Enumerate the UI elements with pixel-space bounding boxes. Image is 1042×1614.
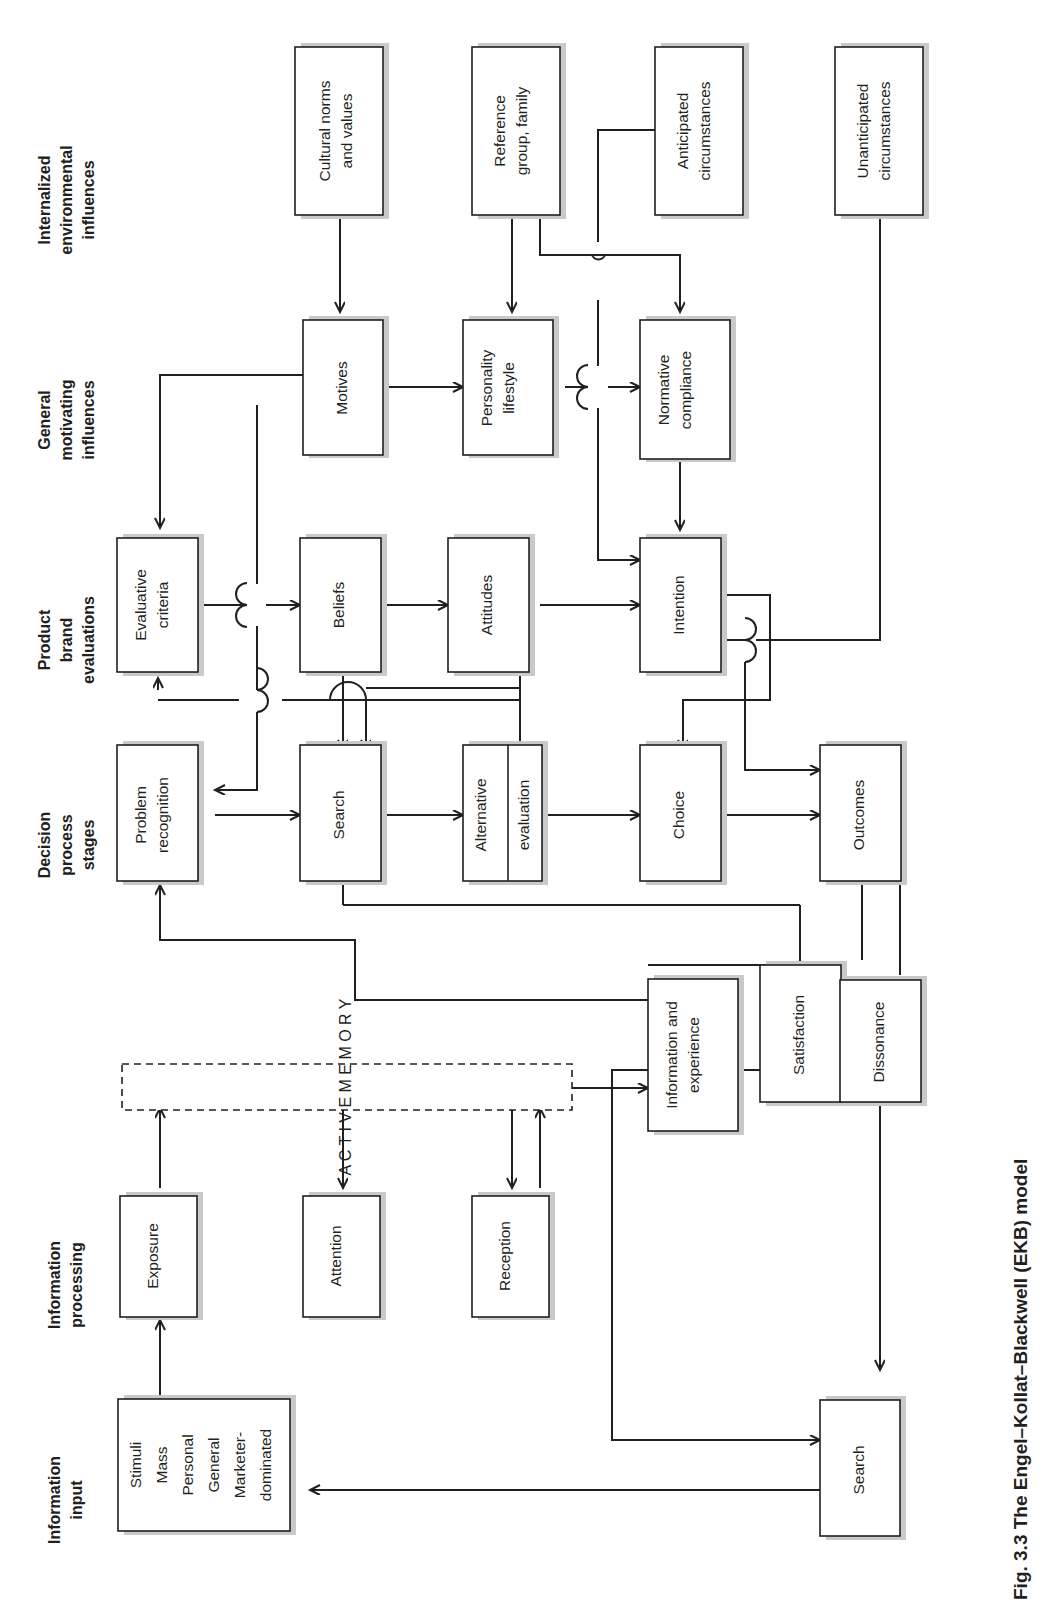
col-product-l2: brand: [58, 618, 75, 662]
diagram-canvas: Internalized environmental influences Ge…: [0, 0, 1042, 1614]
box-evaluative-criteria[interactable]: Evaluative criteria: [117, 534, 204, 676]
box-stimuli-l4: General: [205, 1437, 222, 1492]
box-reference-group-l1: Reference: [491, 95, 508, 167]
box-intention-label: Intention: [670, 575, 687, 634]
box-attention-label: Attention: [327, 1225, 344, 1286]
box-anticipated-l2: circumstances: [696, 81, 713, 180]
box-cultural-norms[interactable]: Cultural norms and values: [295, 43, 389, 219]
box-anticipated-l1: Anticipated: [674, 93, 691, 170]
col-general-l3: influences: [80, 380, 97, 459]
box-outcomes[interactable]: Outcomes: [820, 741, 907, 885]
box-intention[interactable]: Intention: [640, 534, 727, 676]
box-attention[interactable]: Attention: [303, 1192, 386, 1320]
box-search-input[interactable]: Search: [820, 1396, 906, 1540]
ekb-diagram: Internalized environmental influences Ge…: [0, 0, 1042, 1614]
box-normative-l2: compliance: [677, 351, 694, 429]
box-stimuli-l1: Stimuli: [127, 1442, 144, 1489]
box-info-l1: Information and: [663, 1001, 680, 1109]
box-dissonance-label: Dissonance: [870, 1002, 887, 1083]
box-evalcrit-l1: Evaluative: [132, 569, 149, 641]
box-reception-label: Reception: [496, 1221, 513, 1291]
box-exposure[interactable]: Exposure: [120, 1192, 203, 1320]
box-normative-l1: Normative: [655, 355, 672, 426]
active-memory-label: A C T I V E M E M O R Y: [337, 998, 354, 1175]
col-input-l2: input: [68, 1480, 85, 1520]
box-attitudes[interactable]: Attitudes: [448, 534, 535, 676]
col-product-l3: evaluations: [80, 596, 97, 684]
box-problem-l1: Problem: [132, 786, 149, 844]
box-stimuli-l5: Marketer-: [231, 1432, 248, 1498]
box-unanticipated-l1: Unanticipated: [854, 84, 871, 179]
box-problem-recognition[interactable]: Problem recognition: [117, 741, 204, 885]
box-stimuli-l6: dominated: [257, 1429, 274, 1501]
box-information-and-experience[interactable]: Information and experience: [648, 975, 744, 1135]
box-stimuli[interactable]: Stimuli Mass Personal General Marketer- …: [118, 1395, 296, 1535]
column-label-decision: Decision process stages: [36, 812, 97, 879]
box-dissonance[interactable]: Dissonance: [840, 976, 927, 1106]
box-unanticipated-l2: circumstances: [876, 81, 893, 180]
box-unanticipated-circumstances[interactable]: Unanticipated circumstances: [835, 43, 929, 219]
col-input-l1: Information: [46, 1456, 63, 1544]
box-beliefs[interactable]: Beliefs: [300, 534, 387, 676]
box-outcomes-label: Outcomes: [850, 779, 867, 850]
box-satisfaction-label: Satisfaction: [790, 995, 807, 1075]
box-alternative-evaluation[interactable]: Alternative evaluation: [463, 741, 548, 885]
column-label-internalized: Internalized environmental influences: [36, 145, 97, 254]
box-anticipated-circumstances[interactable]: Anticipated circumstances: [655, 43, 749, 219]
box-cultural-norms-l2: and values: [338, 93, 355, 168]
col-processing-l1: Information: [46, 1241, 63, 1329]
box-cultural-norms-l1: Cultural norms: [316, 80, 333, 181]
box-stimuli-l3: Personal: [179, 1434, 196, 1495]
figure-caption: Fig. 3.3 The Engel–Kollat–Blackwell (EKB…: [1010, 1159, 1032, 1600]
box-reference-group-l2: group, family: [513, 86, 530, 175]
col-internalized-l1: Internalized: [36, 156, 53, 245]
box-satisfaction[interactable]: Satisfaction: [760, 961, 847, 1106]
box-personality-l2: lifestyle: [500, 362, 517, 414]
col-decision-l3: stages: [80, 820, 97, 871]
col-internalized-l3: influences: [80, 160, 97, 239]
box-search-input-label: Search: [850, 1445, 867, 1494]
col-general-l1: General: [36, 390, 53, 450]
box-info-l2: experience: [685, 1017, 702, 1093]
box-choice[interactable]: Choice: [640, 741, 727, 885]
box-search-stage[interactable]: Search: [300, 741, 387, 885]
box-evalcrit-l2: criteria: [154, 581, 171, 628]
box-alteval-l1: Alternative: [472, 778, 489, 851]
box-exposure-label: Exposure: [144, 1223, 161, 1288]
box-reference-group[interactable]: Reference group, family: [472, 43, 566, 219]
box-motives-label: Motives: [333, 361, 350, 415]
box-choice-label: Choice: [670, 791, 687, 839]
col-decision-l2: process: [58, 814, 75, 875]
box-alteval-l2: evaluation: [515, 780, 532, 851]
box-problem-l2: recognition: [154, 777, 171, 853]
box-normative-compliance[interactable]: Normative compliance: [640, 316, 736, 462]
box-motives[interactable]: Motives: [303, 316, 389, 458]
box-beliefs-label: Beliefs: [330, 581, 347, 628]
col-internalized-l2: environmental: [58, 145, 75, 254]
col-decision-l1: Decision: [36, 812, 53, 879]
col-processing-l2: processing: [68, 1242, 85, 1327]
box-personality-lifestyle[interactable]: Personality lifestyle: [463, 316, 559, 458]
column-label-general: General motivating influences: [36, 380, 97, 461]
box-attitudes-label: Attitudes: [478, 575, 495, 636]
col-general-l2: motivating: [58, 380, 75, 461]
col-product-l1: Product: [36, 609, 53, 670]
box-reception[interactable]: Reception: [472, 1192, 555, 1320]
box-stimuli-l2: Mass: [153, 1446, 170, 1483]
box-search-stage-label: Search: [330, 790, 347, 839]
box-personality-l1: Personality: [478, 349, 495, 426]
